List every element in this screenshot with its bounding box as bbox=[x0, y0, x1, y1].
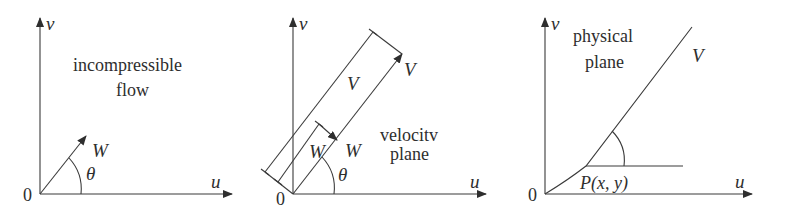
point-label: P(x, y) bbox=[579, 173, 628, 194]
angle-arc bbox=[322, 157, 334, 194]
streamline-label: V bbox=[692, 45, 706, 66]
inner-tick-top bbox=[315, 121, 323, 127]
v-axis-label: v bbox=[299, 13, 308, 34]
u-axis-label: u bbox=[211, 171, 221, 192]
hodograph-figure: v u 0 incompressible flow W θ v u 0 V W … bbox=[0, 0, 786, 210]
panel-title-line-2: plane bbox=[390, 144, 429, 164]
panel-incompressible-flow: v u 0 incompressible flow W θ bbox=[23, 13, 232, 205]
panel-title-line-1: physical bbox=[573, 26, 633, 46]
panel-physical-plane: v u 0 physical plane V P(x, y) bbox=[528, 13, 752, 205]
u-axis-label: u bbox=[470, 171, 480, 192]
panel-title-line-2: plane bbox=[585, 52, 624, 72]
origin-label: 0 bbox=[276, 189, 285, 209]
panel-title-line-1: velocitv bbox=[380, 125, 438, 145]
origin-label: 0 bbox=[23, 185, 32, 205]
angle-label: θ bbox=[86, 163, 95, 184]
panel-title-line-2: flow bbox=[116, 80, 149, 100]
panel-title-line-1: incompressible bbox=[73, 55, 182, 75]
outer-tick-top bbox=[369, 29, 377, 35]
origin-label: 0 bbox=[528, 185, 537, 205]
angle-arc bbox=[612, 131, 624, 166]
inner-tick-bottom bbox=[274, 179, 282, 185]
angle-label: θ bbox=[338, 164, 347, 185]
w-vector bbox=[40, 136, 86, 194]
outer-dim-label: V bbox=[347, 73, 361, 94]
u-axis-label: u bbox=[735, 171, 745, 192]
outer-tick-bottom bbox=[261, 169, 269, 175]
v-vector-label: V bbox=[404, 59, 418, 80]
outer-dim-top-cap bbox=[373, 32, 402, 54]
angle-arc bbox=[69, 158, 81, 194]
w-vector-label: W bbox=[92, 140, 110, 161]
v-axis-label: v bbox=[551, 13, 560, 34]
panel-velocity-plane: v u 0 V W V W θ velocitv plane bbox=[261, 13, 486, 209]
v-axis-label: v bbox=[46, 13, 55, 34]
w-vector-label: W bbox=[345, 140, 363, 161]
